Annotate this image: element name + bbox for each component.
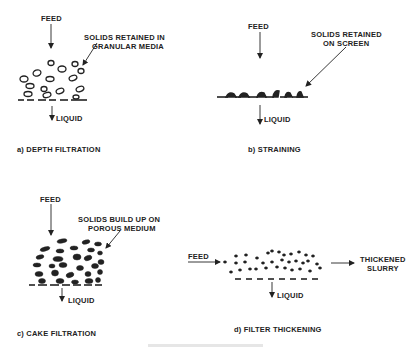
panel-d-liquid-label: LIQUID	[277, 291, 304, 300]
diagram-graphics	[0, 0, 419, 349]
panel-b-caption: b) STRAINING	[248, 145, 301, 154]
panel-a-liquid-label: LIQUID	[56, 114, 83, 123]
panel-d-output-line1: THICKENED	[360, 255, 406, 264]
panel-c-caption: c) CAKE FILTRATION	[17, 329, 96, 338]
panel-b-feed-label: FEED	[248, 22, 269, 31]
panel-d-caption: d) FILTER THICKENING	[234, 325, 322, 334]
panel-b-annotation-line1: SOLIDS RETAINED	[311, 30, 382, 39]
panel-c-liquid-label: LIQUID	[68, 296, 95, 305]
faded-figure-caption	[148, 344, 263, 347]
panel-d-feed-label: FEED	[188, 252, 209, 261]
panel-a-caption: a) DEPTH FILTRATION	[17, 145, 101, 154]
panel-a-annotation-line1: SOLIDS RETAINED IN	[84, 33, 165, 42]
panel-a-annotation-line2: GRANULAR MEDIA	[92, 42, 164, 51]
panel-b-liquid-label: LIQUID	[264, 115, 291, 124]
panel-a-feed-label: FEED	[41, 14, 62, 23]
panel-d-graphics	[188, 250, 354, 297]
panel-c-annotation-line2: POROUS MEDIUM	[88, 224, 156, 233]
panel-c-annotation-line1: SOLIDS BUILD UP ON	[78, 215, 160, 224]
panel-c-feed-label: FEED	[40, 195, 61, 204]
panel-b-annotation-line2: ON SCREEN	[323, 39, 369, 48]
filtration-diagram: FEED SOLIDS RETAINED IN GRANULAR MEDIA L…	[0, 0, 419, 349]
panel-d-output-line2: SLURRY	[367, 264, 399, 273]
